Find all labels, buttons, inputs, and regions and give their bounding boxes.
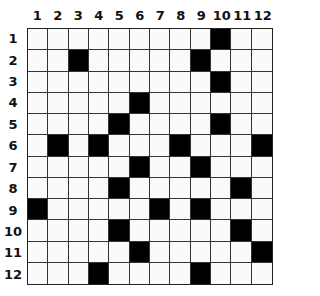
white-cell[interactable]: [150, 93, 170, 114]
white-cell[interactable]: [89, 220, 109, 241]
white-cell[interactable]: [191, 114, 211, 135]
white-cell[interactable]: [170, 50, 190, 71]
white-cell[interactable]: [130, 72, 150, 93]
white-cell[interactable]: [150, 263, 170, 284]
white-cell[interactable]: [252, 50, 272, 71]
white-cell[interactable]: [69, 220, 89, 241]
white-cell[interactable]: [109, 242, 129, 263]
white-cell[interactable]: [252, 199, 272, 220]
white-cell[interactable]: [48, 114, 68, 135]
white-cell[interactable]: [48, 199, 68, 220]
white-cell[interactable]: [69, 242, 89, 263]
white-cell[interactable]: [231, 242, 251, 263]
white-cell[interactable]: [231, 93, 251, 114]
white-cell[interactable]: [28, 263, 48, 284]
white-cell[interactable]: [211, 263, 231, 284]
white-cell[interactable]: [28, 135, 48, 156]
white-cell[interactable]: [109, 72, 129, 93]
white-cell[interactable]: [150, 157, 170, 178]
white-cell[interactable]: [150, 135, 170, 156]
white-cell[interactable]: [211, 199, 231, 220]
white-cell[interactable]: [170, 220, 190, 241]
white-cell[interactable]: [191, 29, 211, 50]
white-cell[interactable]: [150, 114, 170, 135]
white-cell[interactable]: [89, 199, 109, 220]
white-cell[interactable]: [191, 93, 211, 114]
white-cell[interactable]: [130, 29, 150, 50]
white-cell[interactable]: [191, 220, 211, 241]
white-cell[interactable]: [48, 93, 68, 114]
white-cell[interactable]: [28, 72, 48, 93]
white-cell[interactable]: [109, 135, 129, 156]
white-cell[interactable]: [69, 135, 89, 156]
white-cell[interactable]: [231, 114, 251, 135]
white-cell[interactable]: [211, 135, 231, 156]
white-cell[interactable]: [109, 50, 129, 71]
white-cell[interactable]: [170, 93, 190, 114]
white-cell[interactable]: [28, 29, 48, 50]
white-cell[interactable]: [130, 114, 150, 135]
white-cell[interactable]: [69, 157, 89, 178]
white-cell[interactable]: [170, 157, 190, 178]
white-cell[interactable]: [150, 220, 170, 241]
white-cell[interactable]: [89, 72, 109, 93]
white-cell[interactable]: [28, 178, 48, 199]
white-cell[interactable]: [48, 263, 68, 284]
white-cell[interactable]: [170, 199, 190, 220]
white-cell[interactable]: [252, 29, 272, 50]
white-cell[interactable]: [48, 72, 68, 93]
white-cell[interactable]: [89, 242, 109, 263]
white-cell[interactable]: [191, 242, 211, 263]
white-cell[interactable]: [252, 220, 272, 241]
white-cell[interactable]: [89, 50, 109, 71]
white-cell[interactable]: [69, 114, 89, 135]
white-cell[interactable]: [48, 220, 68, 241]
white-cell[interactable]: [252, 93, 272, 114]
white-cell[interactable]: [252, 114, 272, 135]
white-cell[interactable]: [89, 29, 109, 50]
white-cell[interactable]: [150, 50, 170, 71]
white-cell[interactable]: [28, 242, 48, 263]
white-cell[interactable]: [231, 50, 251, 71]
white-cell[interactable]: [231, 263, 251, 284]
white-cell[interactable]: [69, 29, 89, 50]
white-cell[interactable]: [109, 93, 129, 114]
white-cell[interactable]: [69, 72, 89, 93]
white-cell[interactable]: [170, 263, 190, 284]
white-cell[interactable]: [231, 29, 251, 50]
white-cell[interactable]: [170, 72, 190, 93]
white-cell[interactable]: [252, 157, 272, 178]
white-cell[interactable]: [211, 50, 231, 71]
white-cell[interactable]: [191, 135, 211, 156]
white-cell[interactable]: [170, 178, 190, 199]
white-cell[interactable]: [150, 29, 170, 50]
white-cell[interactable]: [28, 220, 48, 241]
white-cell[interactable]: [191, 72, 211, 93]
white-cell[interactable]: [211, 242, 231, 263]
white-cell[interactable]: [211, 93, 231, 114]
white-cell[interactable]: [211, 220, 231, 241]
white-cell[interactable]: [150, 72, 170, 93]
white-cell[interactable]: [130, 263, 150, 284]
white-cell[interactable]: [150, 242, 170, 263]
white-cell[interactable]: [28, 93, 48, 114]
white-cell[interactable]: [48, 29, 68, 50]
white-cell[interactable]: [170, 29, 190, 50]
white-cell[interactable]: [69, 263, 89, 284]
white-cell[interactable]: [252, 263, 272, 284]
white-cell[interactable]: [109, 263, 129, 284]
white-cell[interactable]: [48, 157, 68, 178]
white-cell[interactable]: [130, 199, 150, 220]
white-cell[interactable]: [130, 220, 150, 241]
white-cell[interactable]: [252, 178, 272, 199]
white-cell[interactable]: [211, 178, 231, 199]
white-cell[interactable]: [231, 157, 251, 178]
white-cell[interactable]: [109, 157, 129, 178]
white-cell[interactable]: [109, 199, 129, 220]
white-cell[interactable]: [231, 199, 251, 220]
white-cell[interactable]: [231, 135, 251, 156]
white-cell[interactable]: [170, 114, 190, 135]
white-cell[interactable]: [48, 50, 68, 71]
white-cell[interactable]: [28, 114, 48, 135]
white-cell[interactable]: [48, 242, 68, 263]
